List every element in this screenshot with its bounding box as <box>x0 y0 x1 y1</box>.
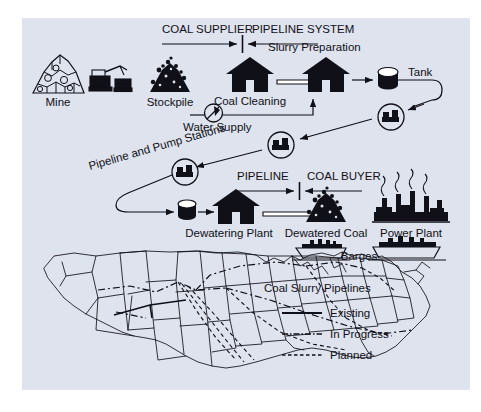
node-label-dewatering-plant: Dewatering Plant <box>185 227 273 239</box>
pump-station-icon <box>268 132 294 158</box>
node-label-stockpile: Stockpile <box>147 96 194 108</box>
map-pipeline-in-progress <box>98 262 412 334</box>
dewatering-plant-building <box>212 189 260 224</box>
node-label-coal-cleaning: Coal Cleaning <box>214 95 286 107</box>
flow-tank-to-pump1 <box>408 104 424 110</box>
legend-entry-in-progress: In Progress <box>282 328 389 340</box>
zone-label-coal-supplier: COAL SUPPLIER <box>162 23 253 35</box>
node-label-tank: Tank <box>408 66 433 78</box>
coal-pile-icon <box>306 186 346 222</box>
diagram-canvas: COAL SUPPLIER PIPELINE SYSTEM <box>0 0 481 412</box>
node-label-dewatered-coal: Dewatered Coal <box>285 227 367 239</box>
dewatering-tank-icon <box>178 200 196 220</box>
tank-icon <box>378 68 398 90</box>
stockpile-icon <box>150 56 190 92</box>
power-plant-icon <box>372 169 450 222</box>
zone-label-coal-buyer: COAL BUYER <box>307 170 381 182</box>
legend-entry-existing: Existing <box>282 307 370 319</box>
pump-station-icon <box>378 104 404 130</box>
pump-station-icon <box>172 159 198 185</box>
zone-divider-lower <box>237 182 362 200</box>
legend-label-in-progress: In Progress <box>330 328 389 340</box>
diagram-root: COAL SUPPLIER PIPELINE SYSTEM <box>0 0 481 412</box>
legend-label-planned: Planned <box>330 349 372 361</box>
zone-label-pipeline-system: PIPELINE SYSTEM <box>252 23 354 35</box>
node-label-slurry-preparation: Slurry Preparation <box>268 41 361 53</box>
node-label-barges: Barges <box>341 250 378 262</box>
legend-title: Coal Slurry Pipelines <box>264 282 371 294</box>
slurry-preparation-building <box>302 57 350 92</box>
node-label-mine: Mine <box>46 96 71 108</box>
mine-icon <box>33 55 132 93</box>
zone-label-pipeline: PIPELINE <box>237 170 289 182</box>
legend-label-existing: Existing <box>330 307 370 319</box>
coal-cleaning-building <box>226 57 274 92</box>
